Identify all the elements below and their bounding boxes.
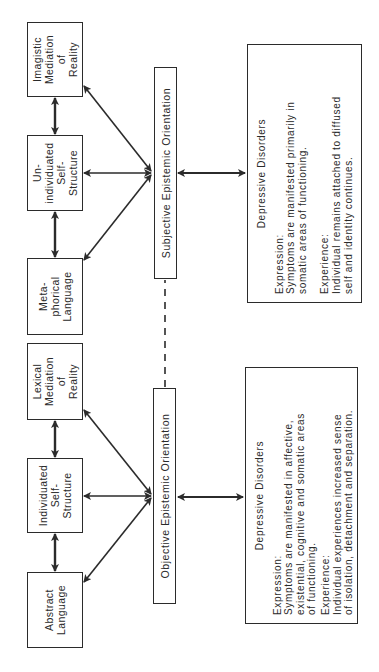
concept-lexical-mediation: Lexical Mediation of Reality bbox=[27, 343, 83, 420]
arrow-abstract-objective bbox=[84, 498, 151, 582]
experience-line: Individual remains attached to diffused bbox=[331, 53, 343, 294]
concept-abstract-language: Abstract Language bbox=[27, 572, 83, 648]
subjective-epistemic-orientation: Subjective Epistemic Orientation bbox=[154, 67, 177, 279]
arrow-imagistic-subjective bbox=[84, 86, 151, 171]
experience-line: of isolation, detachment and separation. bbox=[343, 376, 355, 615]
expression-line: somatic areas of functioning. bbox=[297, 53, 309, 294]
expression-line: of functioning. bbox=[306, 376, 318, 615]
expression-line: existential, cognitive and somatic areas bbox=[295, 376, 307, 615]
expression-label: Expression: bbox=[274, 53, 286, 294]
concept-imagistic-mediation: Imagistic Mediation of Reality bbox=[27, 22, 83, 97]
experience-line: self and identity continues. bbox=[343, 53, 355, 294]
disorder-box-title: Depressive Disorders bbox=[256, 53, 268, 294]
subjective-depressive-disorders-box: Depressive Disorders Expression: Symptom… bbox=[247, 44, 362, 303]
concept-unindividuated-self-structure: Un- individuated Self- Structure bbox=[27, 135, 83, 211]
arrow-lexical-objective bbox=[84, 410, 151, 494]
objective-depressive-disorders-box: Depressive Disorders Expression: Symptom… bbox=[245, 367, 358, 624]
disorder-box-title: Depressive Disorders bbox=[254, 376, 266, 615]
arrow-metaphorical-subjective bbox=[84, 175, 151, 260]
experience-label: Experience: bbox=[319, 53, 331, 294]
experience-label: Experience: bbox=[320, 376, 332, 615]
spacer bbox=[308, 53, 317, 294]
expression-line: Symptoms are manifested primarily in bbox=[285, 53, 297, 294]
concept-metaphorical-language: Meta- phorical Language bbox=[27, 258, 83, 335]
objective-epistemic-orientation: Objective Epistemic Orientation bbox=[153, 388, 176, 604]
experience-line: Individual experiences increased sense bbox=[332, 376, 344, 615]
diagram-canvas: Abstract Language Individuated Self- Str… bbox=[0, 0, 379, 672]
expression-line: Symptoms are manifested in affective, bbox=[283, 376, 295, 615]
expression-label: Expression: bbox=[272, 376, 284, 615]
concept-individuated-self-structure: Individuated Self- Structure bbox=[27, 458, 83, 533]
